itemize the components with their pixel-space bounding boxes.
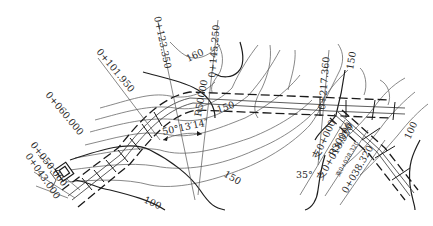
contour-label-150: 150: [222, 168, 243, 187]
contour-lines: [65, 40, 428, 186]
alignment-plan-drawing: 0+043.000 0+050.000 0+060.000 0+101.950 …: [0, 0, 433, 226]
index-contours: [70, 42, 420, 210]
cross-ticks: [82, 98, 410, 190]
contour-label-100: 100: [142, 194, 163, 212]
contour-label-100: 100: [402, 120, 420, 141]
contour-label-150: 150: [215, 99, 236, 115]
station-label: 0+101.950: [94, 46, 137, 94]
station-label: 0+217.360: [316, 56, 332, 110]
contour-label-150: 150: [344, 51, 358, 71]
contour-label-160: 160: [184, 46, 205, 64]
station-label: 0+145.250: [206, 24, 222, 78]
station-label: 0+060.000: [43, 89, 86, 137]
branch-angle-label: 35°: [296, 169, 313, 180]
